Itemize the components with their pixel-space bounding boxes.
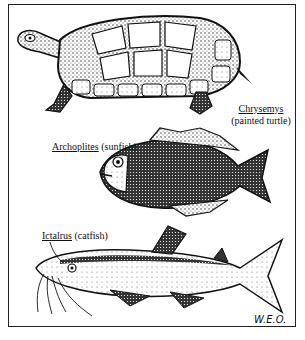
sunfish-common-name: (sunfish): [101, 141, 137, 152]
artist-signature: W.E.O.: [254, 314, 286, 325]
turtle-common-name: (painted turtle): [231, 115, 291, 126]
turtle-genus: Chrysemys: [239, 103, 284, 114]
sunfish-genus: Archoplites: [52, 141, 99, 152]
sunfish-caption: Archoplites (sunfish): [52, 141, 137, 153]
catfish-caption: Ictalrus (catfish): [42, 230, 108, 242]
turtle-drawing: [18, 16, 252, 114]
illustration-drawings: [0, 0, 305, 340]
turtle-caption: Chrysemys (painted turtle): [226, 103, 296, 127]
catfish-common-name: (catfish): [75, 230, 108, 241]
catfish-genus: Ictalrus: [42, 230, 72, 241]
